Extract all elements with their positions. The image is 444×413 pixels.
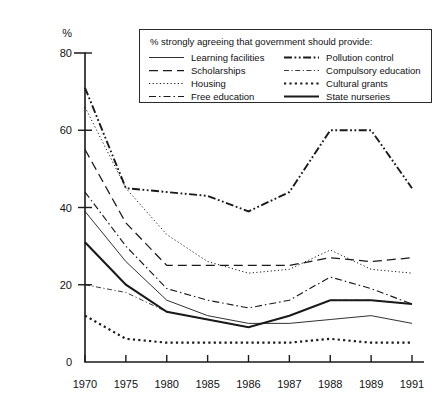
y-axis-unit-label: % [62,27,72,39]
x-tick-label: 1975 [114,378,138,390]
series-line-cultural-grants [85,316,412,343]
legend-item-label: Housing [191,79,226,89]
legend-item-label: Free education [191,92,254,102]
legend-item: Compulsory education [284,65,424,76]
legend-line-swatch-icon [284,53,319,62]
legend-line-swatch-icon [149,79,184,88]
y-tick-label: 40 [60,202,72,214]
x-tick-label: 1989 [359,378,383,390]
x-tick-label: 1986 [236,378,260,390]
legend-item: Housing [149,78,284,89]
legend-line-swatch-icon [284,92,319,101]
x-tick-label: 1991 [400,378,424,390]
series-line-learning-facilities [85,211,412,323]
legend-column-left: Learning facilities Scholarships Housing… [149,52,284,102]
legend-item-label: Cultural grants [326,79,388,89]
line-chart: 0204060801970197519801985198619871988198… [0,0,444,413]
legend-line-swatch-icon [149,53,184,62]
y-tick-label: 60 [60,124,72,136]
legend-item-label: Scholarships [191,66,245,76]
x-tick-label: 1970 [73,378,97,390]
legend-item: State nurseries [284,91,424,102]
x-tick-label: 1980 [155,378,179,390]
legend-item-label: Pollution control [326,53,394,63]
legend-column-right: Pollution control Compulsory education C… [284,52,424,102]
legend-line-swatch-icon [149,66,184,75]
series-line-scholarships [85,150,412,266]
legend-line-swatch-icon [149,92,184,101]
chart-legend: % strongly agreeing that government shou… [139,29,432,103]
x-tick-label: 1987 [277,378,301,390]
chart-series-group [85,88,412,343]
legend-item: Cultural grants [284,78,424,89]
y-tick-label: 20 [60,279,72,291]
y-tick-label: 80 [60,47,72,59]
legend-title: % strongly agreeing that government shou… [150,36,424,47]
x-tick-label: 1985 [195,378,219,390]
series-line-pollution-control [85,88,412,212]
legend-item-label: Learning facilities [191,53,264,63]
legend-item: Scholarships [149,65,284,76]
series-line-state-nurseries [85,242,412,327]
series-line-housing [85,107,412,273]
legend-item: Learning facilities [149,52,284,63]
legend-item: Pollution control [284,52,424,63]
legend-item-label: State nurseries [326,92,390,102]
legend-line-swatch-icon [284,66,319,75]
x-tick-label: 1988 [318,378,342,390]
y-tick-label: 0 [66,356,72,368]
legend-line-swatch-icon [284,79,319,88]
legend-item: Free education [149,91,284,102]
legend-item-label: Compulsory education [326,66,421,76]
